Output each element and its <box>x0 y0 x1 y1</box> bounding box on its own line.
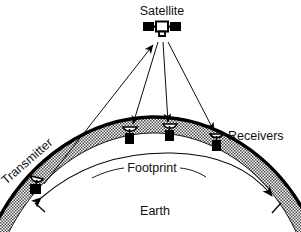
receivers-label: Receivers <box>228 129 284 143</box>
footprint-right-tick <box>272 203 281 213</box>
footprint-label: Footprint <box>127 161 177 175</box>
diagram-canvas: Footprint Satellite <box>0 0 301 232</box>
satellite-solar-panel-left <box>143 22 154 31</box>
downlink-signal-line-2 <box>163 42 168 122</box>
footprint-leader-left <box>92 168 124 178</box>
satellite-icon <box>143 22 181 37</box>
satellite-label: Satellite <box>140 4 185 18</box>
transmitter-mast <box>36 180 37 184</box>
receiver-pedestal-3 <box>212 140 221 151</box>
footprint-left-tick <box>35 203 45 212</box>
footprint-leader-right <box>180 168 206 177</box>
satellite-footprint-diagram: Footprint Satellite <box>0 0 301 232</box>
earth-label: Earth <box>140 204 170 218</box>
satellite-body <box>156 22 168 32</box>
receiver-pedestal-2 <box>165 130 174 141</box>
satellite-solar-panel-right <box>170 22 181 31</box>
footprint-label-group: Footprint <box>92 161 206 178</box>
receiver-pedestal-1 <box>125 133 134 144</box>
transmitter-pedestal <box>30 184 41 194</box>
receiver-station-1 <box>123 127 137 144</box>
satellite-antenna-horn <box>159 32 165 37</box>
